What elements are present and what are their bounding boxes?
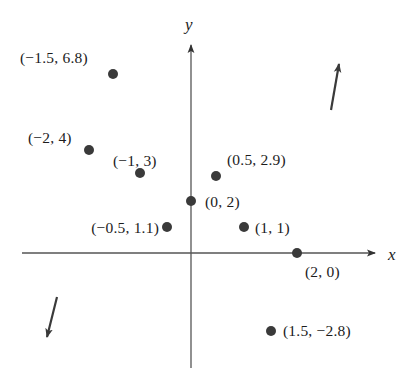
data-point-label: (−0.5, 1.1) bbox=[91, 220, 159, 236]
data-point-label: (−1, 3) bbox=[113, 153, 157, 169]
data-point-dot bbox=[84, 145, 94, 155]
data-point-dots bbox=[84, 69, 302, 336]
x-axis-label: x bbox=[388, 246, 396, 263]
data-point-label: (2, 0) bbox=[305, 264, 340, 280]
data-point-dot bbox=[211, 171, 221, 181]
data-point-dot bbox=[266, 326, 276, 336]
scatter-plot-figure: x y (−1.5, 6.8)(−2, 4)(−1, 3)(0.5, 2.9)(… bbox=[0, 0, 416, 368]
trend-up-arrow bbox=[331, 64, 339, 110]
data-point-label: (1.5, −2.8) bbox=[283, 323, 351, 339]
data-point-label: (−2, 4) bbox=[28, 130, 72, 146]
data-point-dot bbox=[135, 168, 145, 178]
data-point-dot bbox=[162, 222, 172, 232]
trend-down-arrow bbox=[47, 297, 57, 337]
data-point-dot bbox=[186, 196, 196, 206]
data-point-label: (1, 1) bbox=[255, 220, 290, 236]
data-point-label: (0.5, 2.9) bbox=[227, 152, 286, 168]
data-point-dot bbox=[292, 248, 302, 258]
y-axis-label: y bbox=[185, 16, 193, 33]
data-point-dot bbox=[239, 222, 249, 232]
data-point-dot bbox=[108, 69, 118, 79]
data-point-label: (−1.5, 6.8) bbox=[20, 50, 88, 66]
data-point-label: (0, 2) bbox=[205, 194, 240, 210]
